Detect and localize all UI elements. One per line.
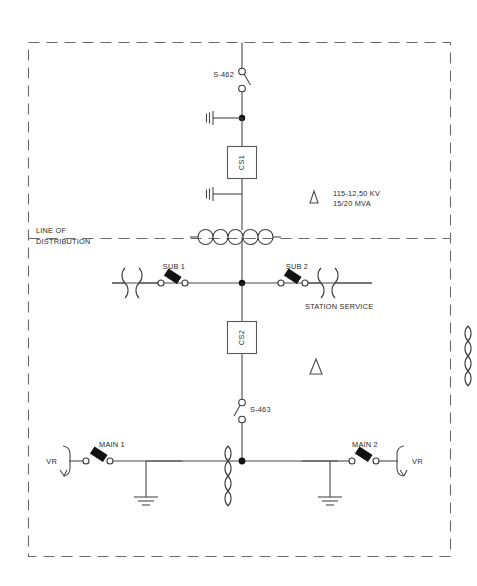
rating-mva-label: 15/20 MVA (333, 199, 371, 208)
sub2-contact-right (302, 280, 308, 286)
transformer-winding-upper (198, 230, 273, 237)
surge-arrester-top-icon (207, 111, 214, 125)
main2-fuse-body (356, 447, 372, 461)
switch-s463-label: S-463 (250, 405, 271, 414)
transformer-rating-delta: 115-12,50 KV 15/20 MVA (310, 189, 380, 208)
fused-switch-sub2-label: SUB 2 (286, 262, 308, 271)
voltage-regulator-right-label: VR (412, 457, 423, 466)
s463-blade (234, 406, 240, 417)
fused-switch-sub1-label: SUB 1 (163, 262, 185, 271)
s462-blade (244, 74, 251, 85)
diagram-svg: LINE OF DISTRIBUTION S-462 CS1 (0, 0, 477, 586)
main-power-transformer (190, 230, 281, 245)
fused-switch-main2-label: MAIN 2 (352, 440, 378, 449)
cs2-label: CS2 (237, 330, 246, 345)
s462-upper-contact (239, 68, 246, 75)
delta-icon-secondary (310, 359, 322, 374)
feeder-transformer-left-winding-b (225, 446, 231, 506)
main2-contact-right (373, 458, 379, 464)
earth-ground-right-icon (318, 497, 342, 505)
main2-contact-left (349, 458, 355, 464)
line-of-distribution-label-2: DISTRIBUTION (36, 237, 91, 246)
sub1-contact-left (158, 280, 164, 286)
fused-switch-main1-label: MAIN 1 (99, 440, 125, 449)
voltage-regulator-left: VR (46, 446, 70, 476)
feeder-transformer-left (225, 446, 231, 506)
main1-contact-right (107, 458, 113, 464)
main1-contact-left (83, 458, 89, 464)
main1-fuse-body (91, 447, 107, 461)
switch-s463[interactable] (234, 399, 245, 423)
sub1-contact-right (182, 280, 188, 286)
earth-ground-left-icon (134, 497, 158, 505)
feeder-transformer-right-winding-b (465, 326, 471, 386)
circuit-switcher-cs2[interactable]: CS2 (228, 322, 257, 354)
fused-switch-main2[interactable] (349, 447, 379, 464)
s463-upper-contact (239, 399, 246, 406)
sub2-contact-left (278, 280, 284, 286)
circuit-switcher-cs1[interactable]: CS1 (228, 147, 257, 179)
cs1-label: CS1 (237, 155, 246, 170)
junction-node-low-bus (239, 458, 246, 465)
line-of-distribution-label-1: LINE OF (36, 226, 66, 235)
single-line-diagram-canvas: LINE OF DISTRIBUTION S-462 CS1 (0, 0, 477, 586)
feeder-transformer-right (465, 326, 471, 386)
s463-lower-contact (239, 416, 246, 423)
switch-s462[interactable] (239, 68, 251, 92)
voltage-regulator-right: VR (397, 446, 423, 476)
surge-arrester-bottom-icon (207, 187, 214, 201)
station-service-label: STATION SERVICE (305, 302, 373, 311)
delta-icon-top (310, 191, 318, 203)
sub2-fuse-body (285, 269, 301, 283)
s462-lower-contact (239, 85, 246, 92)
sub1-fuse-body (165, 269, 181, 283)
voltage-regulator-left-label: VR (46, 457, 57, 466)
rating-voltage-label: 115-12,50 KV (333, 189, 380, 198)
switch-s462-label: S-462 (213, 70, 234, 79)
fused-switch-main1[interactable] (83, 447, 113, 464)
